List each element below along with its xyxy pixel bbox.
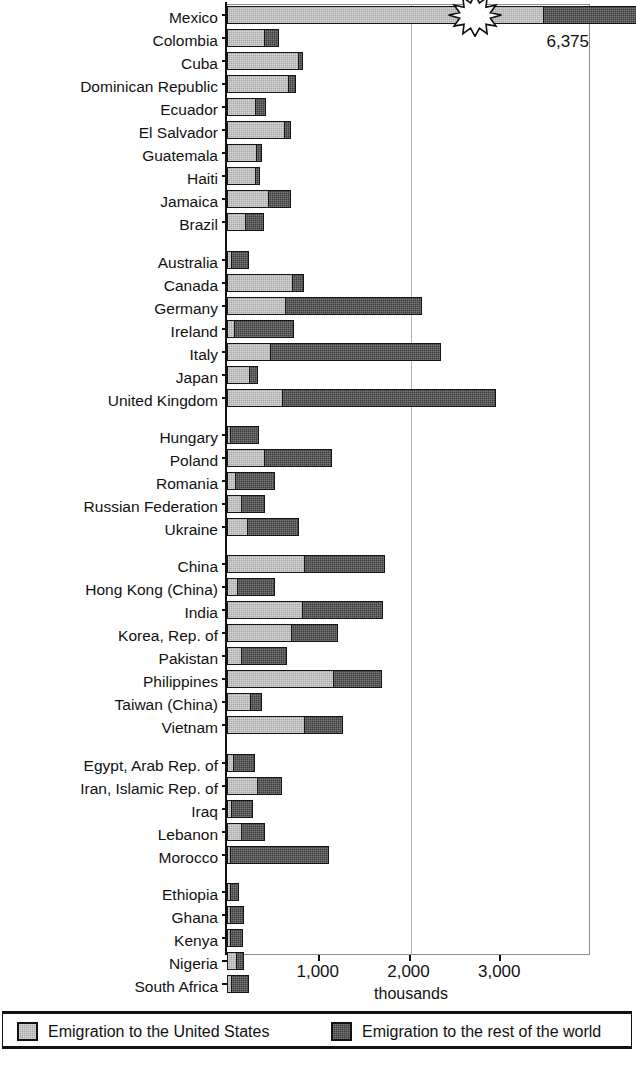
bar-segment-united-states [227, 167, 257, 185]
dark-gray-swatch-icon [331, 1022, 352, 1041]
bar-row: Russian Federation [0, 495, 636, 518]
stacked-bar [227, 777, 590, 795]
stacked-bar [227, 297, 590, 315]
bar-row: United Kingdom [0, 389, 636, 412]
bar-segment-united-states [227, 389, 283, 407]
stacked-bar [227, 449, 590, 467]
bar-segment-united-states [227, 274, 293, 292]
stacked-bar [227, 929, 590, 947]
bar-segment-rest-of-world [236, 952, 244, 970]
bar-row: Korea, Rep. of [0, 624, 636, 647]
bar-segment-rest-of-world [249, 366, 259, 384]
bar-row: Brazil [0, 213, 636, 236]
chart-legend: Emigration to the United States Emigrati… [2, 1011, 632, 1049]
x-axis-tick-label: 3,000 [478, 962, 521, 982]
bar-segment-rest-of-world [304, 555, 384, 573]
bar-segment-united-states [227, 716, 305, 734]
bar-segment-united-states [227, 213, 247, 231]
stacked-bar [227, 274, 590, 292]
bar-row: Ireland [0, 320, 636, 343]
bar-row: Canada [0, 274, 636, 297]
bar-row: Italy [0, 343, 636, 366]
category-label: South Africa [134, 975, 218, 998]
category-label: Ghana [171, 906, 218, 929]
bar-row: Dominican Republic [0, 75, 636, 98]
category-label: Iran, Islamic Rep. of [80, 777, 218, 800]
category-label: Guatemala [142, 144, 218, 167]
stacked-bar [227, 647, 590, 665]
bar-segment-rest-of-world [270, 343, 441, 361]
category-label: Italy [190, 343, 218, 366]
stacked-bar [227, 121, 590, 139]
bar-segment-rest-of-world [230, 883, 239, 901]
category-label: Colombia [153, 29, 218, 52]
bar-segment-united-states [227, 343, 272, 361]
category-label: Ethiopia [162, 883, 218, 906]
category-label: Philippines [143, 670, 218, 693]
stacked-bar [227, 495, 590, 513]
stacked-bar [227, 75, 590, 93]
light-gray-swatch-icon [17, 1022, 38, 1041]
category-label: Pakistan [159, 647, 218, 670]
stacked-bar [227, 251, 590, 269]
bar-segment-united-states [227, 670, 335, 688]
category-label: Ukraine [165, 518, 218, 541]
bar-row: Philippines [0, 670, 636, 693]
bar-row: Vietnam [0, 716, 636, 739]
category-label: El Salvador [139, 121, 218, 144]
bar-row: Hong Kong (China) [0, 578, 636, 601]
bar-segment-rest-of-world [255, 98, 266, 116]
bar-segment-united-states [227, 449, 265, 467]
bar-row: Colombia [0, 29, 636, 52]
bar-segment-rest-of-world [247, 518, 300, 536]
bar-row: Ecuador [0, 98, 636, 121]
category-label: Lebanon [158, 823, 218, 846]
category-label: Mexico [169, 6, 218, 29]
bar-segment-rest-of-world [245, 213, 264, 231]
bar-segment-rest-of-world [304, 716, 343, 734]
legend-label-rest-of-world: Emigration to the rest of the world [362, 1022, 601, 1041]
bar-segment-united-states [227, 777, 258, 795]
category-label: Vietnam [161, 716, 218, 739]
category-label: Cuba [181, 52, 218, 75]
bar-segment-united-states [227, 518, 248, 536]
bar-segment-rest-of-world [231, 975, 249, 993]
bar-segment-united-states [227, 75, 290, 93]
bar-segment-rest-of-world [230, 906, 243, 924]
stacked-bar [227, 601, 590, 619]
bar-segment-rest-of-world [237, 578, 275, 596]
bar-row: Poland [0, 449, 636, 472]
bar-row: Kenya [0, 929, 636, 952]
stacked-bar [227, 29, 590, 47]
category-label: Brazil [179, 213, 218, 236]
stacked-bar [227, 578, 590, 596]
bar-segment-rest-of-world [285, 297, 422, 315]
bar-segment-united-states [227, 693, 252, 711]
stacked-bar [227, 693, 590, 711]
bar-segment-rest-of-world [264, 449, 332, 467]
category-label: Dominican Republic [80, 75, 218, 98]
legend-label-united-states: Emigration to the United States [48, 1022, 269, 1041]
bar-segment-rest-of-world [543, 6, 636, 24]
category-label: Jamaica [160, 190, 218, 213]
x-axis-tick-label: 1,000 [296, 962, 339, 982]
bar-segment-united-states [227, 98, 257, 116]
category-label: Morocco [159, 846, 218, 869]
category-label: Japan [176, 366, 218, 389]
bar-segment-rest-of-world [241, 823, 265, 841]
category-label: United Kingdom [108, 389, 218, 412]
stacked-bar [227, 800, 590, 818]
stacked-bar [227, 518, 590, 536]
bar-segment-rest-of-world [284, 121, 290, 139]
stacked-bar [227, 846, 590, 864]
bar-segment-rest-of-world [256, 144, 261, 162]
category-label: Germany [154, 297, 218, 320]
stacked-bar [227, 823, 590, 841]
bar-row: Ukraine [0, 518, 636, 541]
x-axis-tick-mark [318, 955, 320, 961]
bar-segment-rest-of-world [255, 167, 260, 185]
bar-segment-rest-of-world [230, 929, 242, 947]
bar-segment-rest-of-world [264, 29, 279, 47]
category-label: Taiwan (China) [115, 693, 218, 716]
stacked-bar [227, 98, 590, 116]
